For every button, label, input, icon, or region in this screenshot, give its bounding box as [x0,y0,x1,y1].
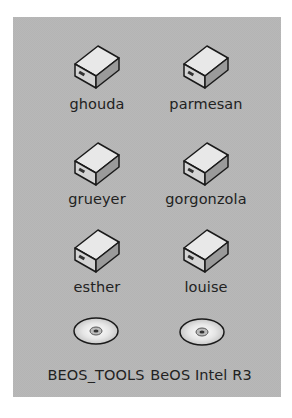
hard-drive-icon [180,42,232,90]
desktop: ghouda parmesan grueyer gorgonzola esthe… [13,17,281,397]
cd-rom-icon [179,318,225,347]
desktop-icon-parmesan[interactable]: parmesan [146,42,266,132]
desktop-icon-esther[interactable]: esther [37,226,157,316]
icon-label: gorgonzola [146,191,266,207]
desktop-icon-grueyer[interactable]: grueyer [37,139,157,229]
desktop-icon-louise[interactable]: louise [146,226,266,316]
icon-label: parmesan [146,96,266,112]
icon-label: louise [146,279,266,295]
icon-label: grueyer [37,191,157,207]
icon-label: ghouda [37,96,157,112]
icon-label: BEOS_TOOLS [36,367,156,383]
hard-drive-icon [180,226,232,274]
desktop-icon-ghouda[interactable]: ghouda [37,42,157,132]
hard-drive-icon [71,139,123,187]
hard-drive-icon [180,139,232,187]
desktop-icon-beos-intel-r3[interactable]: BeOS Intel R3 [141,317,261,387]
desktop-icon-beos-tools[interactable]: BEOS_TOOLS [36,317,156,387]
icon-label: esther [37,279,157,295]
desktop-icon-gorgonzola[interactable]: gorgonzola [146,139,266,229]
hard-drive-icon [71,42,123,90]
icon-label: BeOS Intel R3 [141,367,261,383]
hard-drive-icon [71,226,123,274]
cd-rom-icon [73,317,119,346]
